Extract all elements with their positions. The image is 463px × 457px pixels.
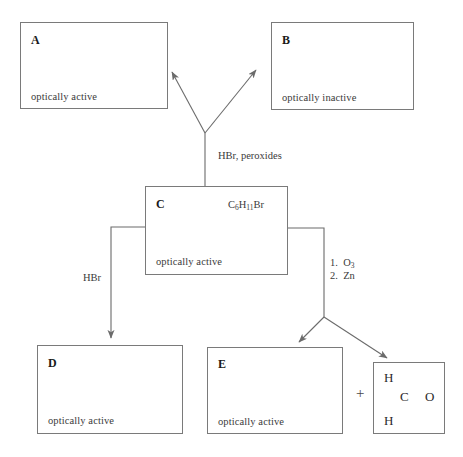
formaldehyde-hydrogen-top: H <box>384 371 393 384</box>
reagent-label-hbr-peroxides: HBr, peroxides <box>218 150 282 162</box>
compound-b-note: optically inactive <box>282 92 356 103</box>
reaction-scheme-diagram: A optically active B optically inactive … <box>0 0 463 457</box>
compound-e-note: optically active <box>218 416 284 427</box>
arrow-c-to-e-and-byproduct <box>288 228 387 358</box>
reagent-label-hbr: HBr <box>83 272 101 284</box>
compound-d-note: optically active <box>48 415 114 426</box>
arrow-c-to-d <box>111 227 145 338</box>
arrow-c-to-ab <box>172 70 256 186</box>
formaldehyde-oxygen: O <box>425 390 434 403</box>
formaldehyde-carbon: C <box>400 390 409 403</box>
plus-sign: + <box>356 386 364 401</box>
compound-b-letter: B <box>282 34 290 46</box>
compound-c-note: optically active <box>156 256 222 267</box>
compound-a-letter: A <box>31 34 40 46</box>
compound-e-letter: E <box>218 358 226 370</box>
compound-a-note: optically active <box>31 91 97 102</box>
formaldehyde-hydrogen-bottom: H <box>384 414 393 427</box>
compound-d-letter: D <box>48 357 57 369</box>
compound-c-formula: C6H11Br <box>228 199 264 213</box>
compound-c-letter: C <box>156 198 165 210</box>
reagent-label-zinc-step: 2. Zn <box>330 270 355 282</box>
